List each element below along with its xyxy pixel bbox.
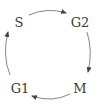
arrow-g2-to-m	[87, 32, 90, 72]
phase-label-g1: G1	[11, 82, 30, 95]
phase-label-s: S	[15, 16, 24, 29]
phase-label-g2: G2	[71, 16, 90, 29]
phase-label-m: M	[73, 82, 86, 95]
cell-cycle-diagram: S G2 M G1	[0, 0, 102, 109]
arrow-m-to-g1	[32, 94, 70, 99]
arrow-g1-to-s	[5, 32, 10, 75]
arrow-s-to-g2	[29, 10, 66, 15]
